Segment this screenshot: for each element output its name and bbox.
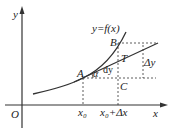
y-axis-label: y — [13, 9, 18, 20]
delta-y-label: Δy — [144, 57, 155, 68]
x0-label: x₀ — [78, 107, 87, 118]
angle-label: α — [93, 69, 98, 79]
dy-label: dy — [103, 65, 113, 75]
point-b-label: B — [110, 37, 117, 48]
origin-label: O — [11, 109, 19, 120]
point-a-label: A — [77, 68, 84, 79]
differential-diagram: y x O y=f(x) A B T C α dy Δy x₀ x₀+Δx — [0, 0, 173, 136]
x-axis-label: x — [153, 108, 158, 119]
point-c-label: C — [120, 81, 127, 92]
x-axis-arrow-icon — [160, 103, 168, 108]
point-t-label: T — [121, 53, 127, 64]
x0-plus-dx-label: x₀+Δx — [100, 107, 127, 118]
curve-label: y=f(x) — [92, 23, 120, 34]
y-axis-arrow-icon — [20, 6, 25, 14]
